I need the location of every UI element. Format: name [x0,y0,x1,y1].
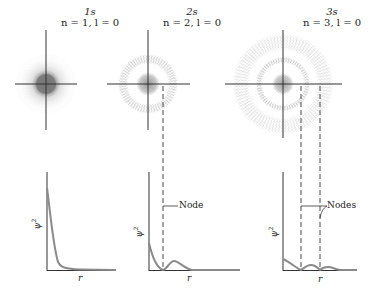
x-axis-label-2s: r [187,273,191,283]
y-axis-label-1s: ψ2 [30,219,42,230]
graph-1s [47,172,116,271]
orbital-diagram [0,0,373,290]
y-axis-label-2s: ψ2 [132,227,144,238]
node-label-2s: Node [179,200,203,210]
node-dashed-lines [163,86,320,270]
nodes-label-3s: Nodes [327,200,356,210]
x-axis-label-1s: r [78,273,82,283]
y-axis-label-3s: ψ2 [267,227,279,238]
x-axis-label-3s: r [318,274,322,284]
axes-cross-3s [225,30,342,138]
probability-curve-1s [47,188,116,270]
